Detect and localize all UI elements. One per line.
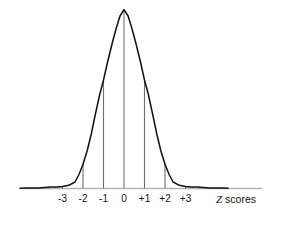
tick-label-z-plus-3: +3 (174, 194, 198, 204)
x-axis-title: Z scores (216, 194, 256, 205)
distribution-plot (0, 0, 287, 225)
x-axis-title-text: scores (222, 193, 256, 205)
normal-distribution-figure: -3 -2 -1 0 +1 +2 +3 Z scores (0, 0, 287, 225)
ordinate-lines (63, 10, 186, 189)
